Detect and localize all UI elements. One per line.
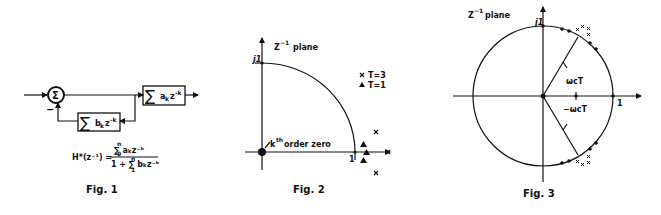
fig1-sum-symbol: Σ [52, 90, 59, 101]
fig3-plane-exp: −1 [474, 7, 483, 14]
fig2-zero-rest: order zero [284, 140, 331, 149]
fig1-formula-num-lower: 0 [117, 150, 121, 157]
fig1-formula-lhs: H*(z⁻¹) = [72, 153, 112, 162]
fig2-zero-th: th [276, 136, 283, 143]
fig3-pole-lower-3 [587, 161, 590, 164]
fig2-legend-t1: T=1 [368, 81, 386, 90]
fig3-one-label: 1 [617, 99, 623, 108]
fig3-pole-lower-4 [587, 155, 590, 158]
fig3-zero-upper-1 [560, 27, 564, 31]
fig2-one-label: 1 [349, 155, 355, 164]
fig1-feedback-return [58, 103, 78, 121]
fig3-origin-dot [541, 94, 546, 99]
fig2-x-lower [374, 171, 378, 175]
fig3-caption: Fig. 3 [523, 188, 555, 199]
fig1-caption: Fig. 1 [86, 184, 118, 195]
fig3-pole-lower-2 [581, 163, 584, 166]
fig3-pole-upper-3 [587, 27, 590, 30]
fig1-forward-exp: -k [175, 89, 182, 96]
fig1-feedback-exp: -k [110, 116, 117, 123]
fig2-legend-triangle [359, 82, 365, 87]
fig2-x-upper [374, 130, 378, 134]
fig3-upper-angle-label: ωcT [566, 77, 584, 86]
fig3-lower-angle-label: −ωcT [563, 105, 587, 114]
fig2-legend-x [360, 73, 364, 77]
fig3-zero-upper-4 [594, 47, 598, 51]
fig3-j1-label: j1 [533, 18, 543, 27]
fig3-upper-radius [543, 37, 578, 96]
fig1-feedback-branch [120, 95, 135, 121]
fig3-zero-lower-3 [588, 147, 592, 151]
fig2-legend-t3: T=3 [368, 71, 386, 80]
fig3-zero-upper-2 [567, 29, 571, 33]
fig2-labels: Z −1 plane j1 1 k th order zero T=3 T=1 … [251, 39, 386, 195]
fig1-minus-sign: − [46, 104, 54, 115]
fig3-plane-word: plane [485, 11, 511, 20]
fig2-one-dot [353, 150, 356, 153]
fig3-zeros [541, 24, 615, 165]
fig1-forward-sigma: ∑ [145, 87, 155, 105]
fig2-caption: Fig. 2 [293, 184, 325, 195]
fig2-plot [245, 38, 390, 170]
fig3-upper-angle-pointer [563, 62, 567, 68]
fig3-pole-upper-1 [576, 28, 579, 31]
fig2-plane-exp: −1 [280, 39, 289, 46]
fig3-labels: Z −1 plane j1 1 ωcT −ωcT Fig. 3 [468, 7, 623, 199]
fig2-j1-label: j1 [251, 55, 261, 64]
fig3-lower-angle-pointer [563, 124, 567, 130]
fig2-triangle-upper [360, 141, 367, 147]
fig3-pole-lower-1 [576, 160, 579, 163]
fig2-triangle-lower [360, 157, 367, 163]
fig3-zero-lower-1 [560, 161, 564, 165]
fig3-one-dot [611, 94, 615, 98]
fig3-pole-upper-4 [587, 33, 590, 36]
fig1-feedback-sigma: ∑ [80, 114, 90, 132]
fig2-zero-dot [258, 148, 266, 156]
fig1-formula-denominator: 1 + ∑ bₖz⁻ᵏ [111, 160, 160, 169]
fig2-plane-word: plane [293, 43, 319, 52]
fig1-labels: Σ − ∑ a k z -k ∑ b k z -k H*(z⁻¹) = n ∑ … [46, 87, 182, 195]
fig3-zero-lower-4 [594, 141, 598, 145]
figure-canvas: Σ − ∑ a k z -k ∑ b k z -k H*(z⁻¹) = n ∑ … [0, 0, 661, 215]
fig3-pole-upper-2 [581, 25, 584, 28]
fig3-wct-dot [574, 94, 578, 98]
fig3-zero-upper-3 [588, 41, 592, 45]
fig3-zero-lower-2 [567, 159, 571, 163]
fig1-formula-den-lower: 1 [131, 166, 135, 173]
